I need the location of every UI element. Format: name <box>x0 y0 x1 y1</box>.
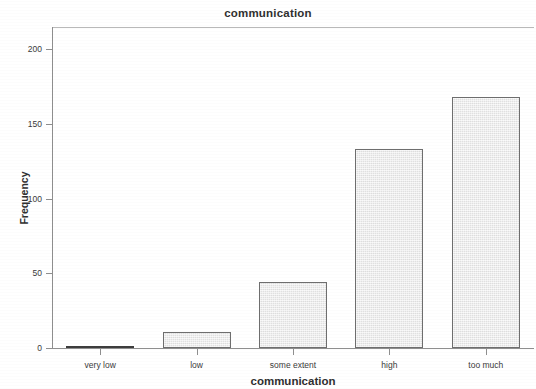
x-axis-tick <box>100 349 101 355</box>
y-axis-tick <box>46 124 53 125</box>
x-axis-tick-label: very low <box>52 360 148 370</box>
bar-low <box>163 332 231 348</box>
bar-chart: communication Frequency 050100150200 ver… <box>0 0 536 389</box>
bar-high <box>355 149 423 348</box>
y-axis-tick <box>46 199 53 200</box>
y-axis-tick-label: 150 <box>28 120 42 129</box>
bar-some-extent <box>259 282 327 348</box>
y-axis-tick-label: 200 <box>28 45 42 54</box>
x-axis-tick-label: high <box>341 360 437 370</box>
y-axis-tick <box>46 273 53 274</box>
chart-title: communication <box>0 7 536 19</box>
x-axis-tick-label: too much <box>438 360 534 370</box>
x-axis-tick <box>389 349 390 355</box>
y-axis-line <box>52 27 53 349</box>
y-axis-tick <box>46 49 53 50</box>
x-axis-tick <box>293 349 294 355</box>
x-axis-tick <box>197 349 198 355</box>
plot-top-border <box>52 27 534 28</box>
bar-too-much <box>452 97 520 348</box>
y-axis-tick <box>46 348 53 349</box>
x-axis-tick-label: low <box>149 360 245 370</box>
bar-very-low <box>66 346 134 348</box>
y-axis-tick-label: 0 <box>37 344 42 353</box>
x-axis-title: communication <box>52 375 534 387</box>
x-axis-tick-label: some extent <box>245 360 341 370</box>
y-axis-tick-label: 50 <box>33 269 42 278</box>
y-axis-tick-label: 100 <box>28 195 42 204</box>
x-axis-tick <box>486 349 487 355</box>
